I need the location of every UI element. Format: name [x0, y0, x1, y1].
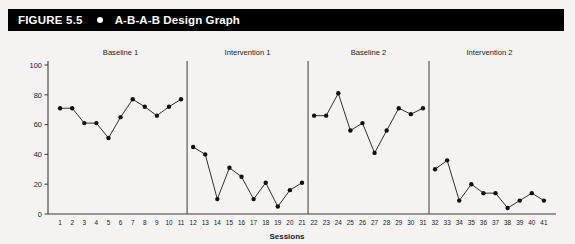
- data-point: [203, 152, 207, 156]
- x-tick-label: 20: [286, 219, 294, 226]
- x-tick-label: 28: [383, 219, 391, 226]
- x-tick-label: 27: [371, 219, 379, 226]
- x-tick-label: 2: [70, 219, 74, 226]
- x-tick-label: 14: [214, 219, 222, 226]
- data-point: [106, 136, 110, 140]
- data-point: [493, 191, 497, 195]
- x-tick-label: 17: [250, 219, 258, 226]
- phase-label-4: Intervention 2: [466, 48, 512, 57]
- figure-header-bar: FIGURE 5.5 A-B-A-B Design Graph: [8, 9, 564, 31]
- data-point: [312, 113, 316, 117]
- data-point: [130, 97, 134, 101]
- data-point: [288, 188, 292, 192]
- x-tick-label: 19: [274, 219, 282, 226]
- x-tick-label: 5: [107, 219, 111, 226]
- data-point: [227, 166, 231, 170]
- x-tick-label: 31: [419, 219, 427, 226]
- data-point: [336, 91, 340, 95]
- data-point: [239, 175, 243, 179]
- phase-label-2: Intervention 1: [225, 48, 271, 57]
- chart-plot-area: Baseline 1Intervention 1Baseline 2Interv…: [0, 31, 575, 244]
- abab-design-line-chart: Baseline 1Intervention 1Baseline 2Interv…: [0, 31, 575, 244]
- phase-line-2: [193, 147, 302, 207]
- data-point: [264, 181, 268, 185]
- y-tick-label: 80: [34, 91, 42, 100]
- figure-title: A-B-A-B Design Graph: [115, 14, 240, 26]
- x-tick-label: 40: [528, 219, 536, 226]
- data-point: [300, 181, 304, 185]
- data-series-group: [58, 91, 546, 210]
- data-point: [348, 128, 352, 132]
- data-point: [191, 145, 195, 149]
- x-tick-label: 30: [407, 219, 415, 226]
- x-tick-label: 15: [226, 219, 234, 226]
- data-point: [179, 97, 183, 101]
- x-tick-label: 11: [178, 219, 185, 226]
- data-point: [445, 158, 449, 162]
- x-tick-label: 7: [131, 219, 135, 226]
- x-tick-label: 23: [323, 219, 331, 226]
- filled-circle-icon: [97, 17, 103, 23]
- y-tick-label: 40: [34, 150, 42, 159]
- x-tick-label: 12: [190, 219, 198, 226]
- x-tick-label: 16: [238, 219, 246, 226]
- data-point: [155, 113, 159, 117]
- data-point: [82, 121, 86, 125]
- x-tick-label: 21: [298, 219, 306, 226]
- data-point: [94, 121, 98, 125]
- data-point: [167, 105, 171, 109]
- data-point: [518, 198, 522, 202]
- data-point: [409, 112, 413, 116]
- phase-label-1: Baseline 1: [103, 48, 138, 57]
- x-tick-label: 4: [95, 219, 99, 226]
- phase-label-3: Baseline 2: [351, 48, 386, 57]
- x-tick-label: 1: [58, 219, 62, 226]
- x-axis-title: Sessions: [269, 232, 305, 241]
- data-point: [421, 106, 425, 110]
- data-point: [276, 204, 280, 208]
- figure-number-label: FIGURE 5.5: [18, 14, 83, 26]
- data-point: [118, 115, 122, 119]
- x-tick-label: 13: [202, 219, 210, 226]
- x-tick-label: 39: [516, 219, 524, 226]
- y-axis: 020406080100: [29, 61, 48, 219]
- x-tick-label: 18: [262, 219, 270, 226]
- y-tick-label: 0: [38, 210, 42, 219]
- x-tick-label: 32: [431, 219, 439, 226]
- data-point: [397, 106, 401, 110]
- data-point: [360, 121, 364, 125]
- data-point: [143, 105, 147, 109]
- x-tick-label: 35: [468, 219, 476, 226]
- x-tick-label: 9: [155, 219, 159, 226]
- phase-line-4: [435, 160, 544, 208]
- data-point: [542, 198, 546, 202]
- x-tick-label: 41: [540, 219, 548, 226]
- x-tick-label: 25: [347, 219, 355, 226]
- data-point: [457, 198, 461, 202]
- x-axis: 1234567891011121314151617181920212223242…: [48, 214, 556, 226]
- y-tick-label: 100: [29, 61, 42, 70]
- figure-container: FIGURE 5.5 A-B-A-B Design Graph Baseline…: [0, 0, 575, 244]
- x-tick-label: 38: [504, 219, 512, 226]
- x-tick-label: 22: [311, 219, 319, 226]
- data-point: [251, 197, 255, 201]
- x-tick-label: 10: [165, 219, 173, 226]
- data-point: [70, 106, 74, 110]
- data-point: [469, 182, 473, 186]
- x-tick-label: 8: [143, 219, 147, 226]
- x-tick-label: 36: [480, 219, 488, 226]
- x-tick-label: 3: [83, 219, 87, 226]
- phase-line-3: [314, 93, 423, 153]
- x-tick-label: 37: [492, 219, 500, 226]
- x-tick-label: 6: [119, 219, 123, 226]
- phase-divider-group: [187, 61, 429, 214]
- y-tick-label: 20: [34, 180, 42, 189]
- data-point: [433, 167, 437, 171]
- data-point: [215, 197, 219, 201]
- y-tick-label: 60: [34, 120, 42, 129]
- data-point: [384, 128, 388, 132]
- phase-label-group: Baseline 1Intervention 1Baseline 2Interv…: [103, 48, 513, 57]
- data-point: [530, 191, 534, 195]
- x-tick-label: 24: [335, 219, 343, 226]
- x-tick-label: 29: [395, 219, 403, 226]
